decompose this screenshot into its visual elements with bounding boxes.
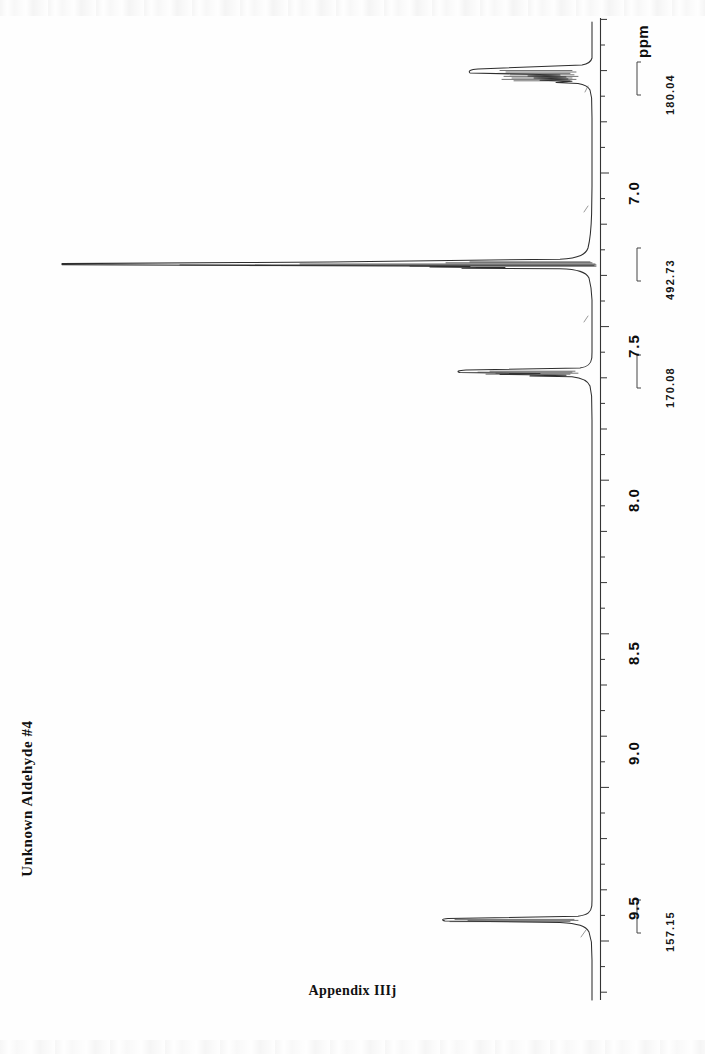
axis-unit-label: ppm: [634, 25, 651, 58]
axis-tick-label-8-0: 8.0: [625, 488, 642, 512]
nmr-spectrum-plot: [0, 0, 705, 1010]
axis-tick-label-7-0: 7.0: [625, 181, 642, 205]
ppm-axis: [600, 18, 609, 1000]
scan-noise-bottom-edge: [0, 1040, 705, 1054]
page-caption: Appendix IIIj: [0, 983, 705, 999]
integral-label-180-04: 180.04: [664, 74, 676, 115]
nmr-trace: [62, 22, 596, 1000]
integral-label-157-15: 157.15: [664, 911, 676, 952]
axis-tick-label-8-5: 8.5: [625, 641, 642, 665]
axis-tick-label-9-5: 9.5: [625, 896, 642, 920]
spectrum-canvas: [0, 0, 705, 1010]
axis-tick-label-7-5: 7.5: [625, 334, 642, 358]
integral-label-170-08: 170.08: [664, 367, 676, 408]
integral-label-492-73: 492.73: [664, 259, 676, 300]
axis-tick-label-9-0: 9.0: [625, 741, 642, 765]
